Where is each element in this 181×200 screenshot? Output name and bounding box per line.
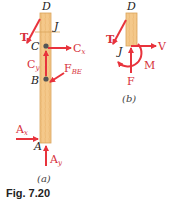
label-point-j: J: [52, 20, 59, 33]
label-force-t: T: [20, 31, 29, 44]
force-fbe-arrow: [50, 73, 64, 82]
cx-sub: x: [81, 48, 85, 56]
label-force-t-b: T: [106, 33, 115, 46]
figure-canvas: D J C B A T Cx Cy FBE Ax Ay (a) D J T V …: [0, 0, 181, 200]
label-force-m: M: [144, 59, 155, 72]
label-point-b: B: [30, 74, 39, 87]
label-force-cx: Cx: [73, 42, 85, 56]
label-point-a: A: [33, 140, 42, 153]
pin-c: [43, 43, 48, 48]
label-force-f: F: [127, 75, 135, 88]
label-force-ax: Ax: [15, 123, 28, 137]
cy-main: C: [27, 58, 35, 71]
label-force-cy: Cy: [27, 58, 40, 72]
label-force-v: V: [157, 40, 167, 53]
label-point-c: C: [31, 40, 40, 53]
member-segment-dj: [126, 13, 137, 46]
panel-a: D J C B A T Cx Cy FBE Ax Ay (a): [15, 0, 85, 184]
label-point-j-b: J: [116, 45, 123, 58]
figure-caption: Fig. 7.20: [6, 187, 50, 199]
panel-b: D J T V M F (b): [106, 0, 167, 104]
cy-sub: y: [34, 64, 40, 72]
cx-main: C: [73, 42, 81, 55]
pin-b: [43, 76, 48, 81]
fbe-sub: BE: [71, 68, 82, 76]
label-force-ay: Ay: [49, 153, 63, 167]
label-point-d-b: D: [126, 0, 136, 13]
label-point-d: D: [41, 0, 51, 13]
force-t-arrow-b: [113, 20, 126, 44]
label-force-fbe: FBE: [64, 62, 82, 76]
caption-b: (b): [122, 93, 136, 104]
caption-a: (a): [37, 173, 51, 184]
ay-sub: y: [57, 159, 63, 167]
ax-sub: x: [24, 129, 28, 137]
